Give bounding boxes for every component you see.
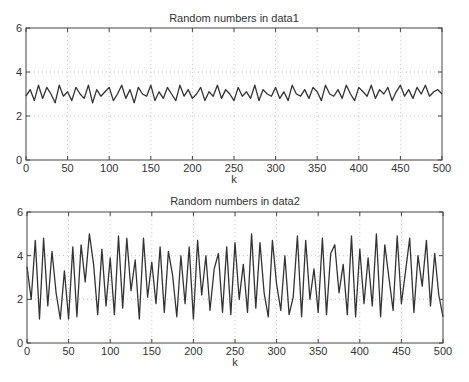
y-tick-label: 6 (16, 22, 22, 34)
series-line-data1 (26, 85, 442, 103)
x-tick-label: 350 (308, 162, 326, 174)
x-tick-label: 150 (143, 345, 161, 357)
chart-title: Random numbers in data2 (170, 195, 300, 207)
x-tick-label: 450 (392, 345, 410, 357)
y-tick-label: 0 (16, 154, 22, 166)
figure: 0501001502002503003504004505000246Random… (0, 0, 469, 382)
x-tick-label: 500 (434, 345, 452, 357)
x-tick-label: 50 (61, 162, 73, 174)
x-tick-label: 100 (101, 345, 119, 357)
x-tick-label: 0 (23, 162, 29, 174)
y-tick-label: 0 (17, 337, 23, 349)
x-axis-label: k (232, 356, 238, 368)
x-tick-label: 350 (309, 345, 327, 357)
x-tick-label: 500 (433, 162, 451, 174)
y-tick-label: 6 (17, 206, 23, 218)
chart-title: Random numbers in data1 (169, 12, 299, 24)
x-tick-label: 400 (350, 162, 368, 174)
x-tick-label: 400 (351, 345, 369, 357)
y-tick-label: 2 (16, 110, 22, 122)
x-tick-label: 300 (267, 345, 285, 357)
axes-frame (27, 212, 443, 343)
axes-data1: 0501001502002503003504004505000246Random… (16, 12, 451, 185)
x-tick-label: 150 (142, 162, 160, 174)
y-tick-label: 4 (17, 250, 23, 262)
x-tick-label: 0 (24, 345, 30, 357)
x-tick-label: 50 (62, 345, 74, 357)
x-tick-label: 450 (391, 162, 409, 174)
x-tick-label: 200 (184, 345, 202, 357)
y-tick-label: 4 (16, 66, 22, 78)
axes-data2: 0501001502002503003504004505000246Random… (17, 195, 452, 368)
x-tick-label: 100 (100, 162, 118, 174)
x-axis-label: k (231, 173, 237, 185)
x-tick-label: 300 (266, 162, 284, 174)
x-tick-label: 200 (183, 162, 201, 174)
y-tick-label: 2 (17, 293, 23, 305)
